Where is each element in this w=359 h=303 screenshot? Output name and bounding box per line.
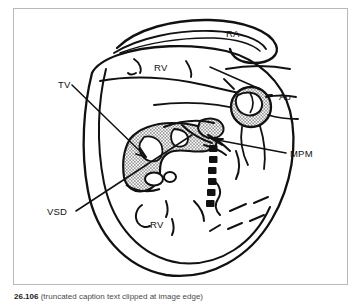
label-ventricular-septal-defect: VSD — [47, 206, 67, 217]
figure-caption-number: 26.106 — [14, 292, 38, 301]
figure-caption-text: (truncated caption text clipped at image… — [41, 292, 203, 301]
label-right-ventricle-lower: RV — [150, 219, 164, 230]
heart-outline — [84, 46, 294, 276]
heart-anatomy-diagram: RA RV Ao TV MPM VSD RV — [14, 9, 349, 286]
label-right-atrium: RA — [226, 28, 240, 39]
figure-frame-border: RA RV Ao TV MPM VSD RV — [13, 8, 348, 285]
label-tricuspid-valve: TV — [58, 79, 71, 90]
right-atrium-outline — [114, 20, 277, 63]
label-medial-papillary-muscle: MPM — [290, 148, 313, 159]
figure-root: RA RV Ao TV MPM VSD RV 26.106 (truncated… — [0, 0, 359, 303]
leader-line-ra — [210, 67, 260, 89]
label-right-ventricle-upper: RV — [154, 62, 168, 73]
figure-caption: 26.106 (truncated caption text clipped a… — [14, 291, 354, 303]
label-aorta: Ao — [279, 91, 291, 102]
vsd-dashed-septal-band — [206, 145, 218, 207]
